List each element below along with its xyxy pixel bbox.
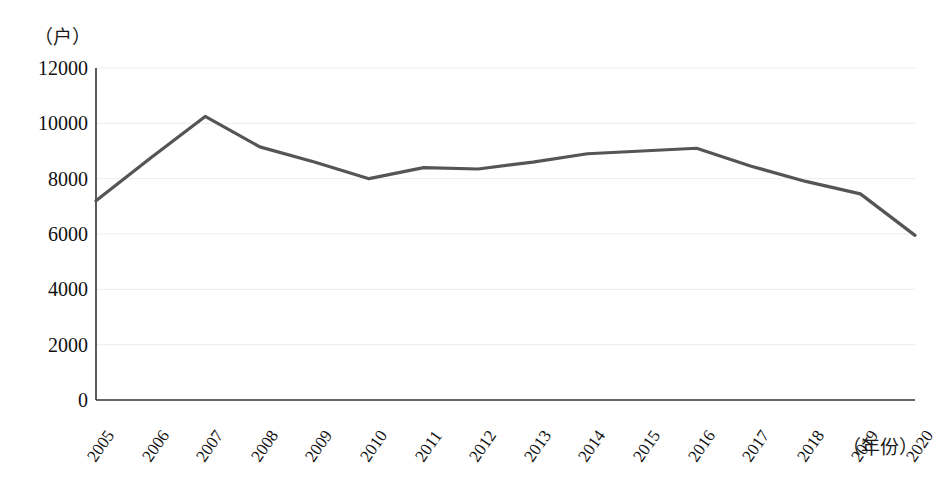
line-chart: （户） 020004000600080001000012000 20052006… <box>0 0 937 480</box>
plot-area <box>0 0 937 480</box>
data-line-series <box>96 116 915 235</box>
x-axis-unit-label: （年份） <box>842 432 918 459</box>
